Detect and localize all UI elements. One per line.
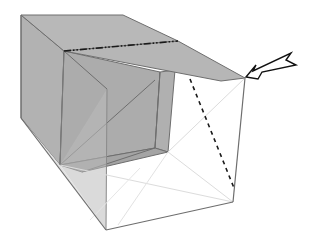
diagram-canvas [0, 0, 310, 247]
outer-edge-right [233, 78, 245, 202]
hidden-edge [168, 78, 245, 152]
outer-edge-bottom [106, 202, 233, 230]
hidden-edge [168, 152, 233, 202]
origami-diagram [0, 0, 310, 247]
push-arrow-icon [246, 53, 296, 79]
hidden-edge [118, 152, 168, 225]
